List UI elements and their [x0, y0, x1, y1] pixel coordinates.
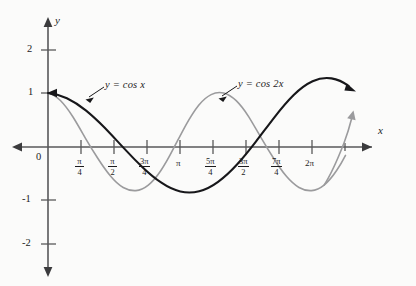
- y-tick-label-1: 1: [28, 87, 33, 98]
- y-axis-label: y: [55, 15, 60, 26]
- x-tick-label-pi-over-2-denominator: 2: [109, 168, 115, 177]
- x-tick-label-5pi-over-4-numerator: 5π: [205, 157, 216, 166]
- x-tick-label-pi-over-2: π 2: [108, 157, 117, 177]
- trig-graph-figure: y x 2 1 0 -1 -2 π 4 π 2 3π 4 π 5π 4 3π 2…: [0, 0, 416, 286]
- x-tick-label-pi: π: [176, 158, 181, 168]
- cos-x-pointer-arrowhead-icon: [86, 98, 94, 103]
- curve-cos-2x-tail: [324, 119, 351, 185]
- x-axis-left-arrow-icon: [12, 143, 22, 152]
- y-tick-label-neg2: -2: [22, 238, 31, 249]
- x-tick-label-3pi-over-4-denominator: 4: [141, 168, 147, 177]
- x-tick-label-3pi-over-4-numerator: 3π: [139, 157, 150, 166]
- x-tick-label-pi-over-2-numerator: π: [109, 157, 115, 166]
- cos-2x-pointer-arrowhead-icon: [219, 97, 227, 102]
- curve-cos-x: [48, 78, 349, 192]
- x-tick-label-pi-over-4-denominator: 4: [76, 168, 82, 177]
- y-axis-up-arrow-icon: [44, 17, 53, 27]
- origin-label: 0: [36, 152, 41, 163]
- y-tick-label-2: 2: [27, 44, 32, 55]
- x-tick-label-5pi-over-4: 5π 4: [205, 157, 216, 177]
- curve-label-cos-2x: y = cos 2x: [238, 79, 284, 90]
- x-tick-label-3pi-over-2-denominator: 2: [240, 168, 246, 177]
- x-tick-label-2pi: 2π: [305, 158, 314, 168]
- cos-x-pointer-line: [89, 87, 104, 97]
- plot-canvas: [0, 0, 416, 286]
- y-tick-label-neg1: -1: [22, 194, 31, 205]
- x-tick-label-pi-over-4-numerator: π: [76, 157, 82, 166]
- x-axis-label: x: [378, 125, 383, 136]
- x-tick-label-3pi-over-2: 3π 2: [238, 157, 249, 177]
- curve-cos-2x-arrowhead-icon: [347, 111, 355, 121]
- y-axis-down-arrow-icon: [44, 267, 53, 277]
- cos-2x-pointer-line: [222, 86, 237, 96]
- x-axis-right-arrow-icon: [362, 143, 372, 152]
- x-tick-label-7pi-over-4-numerator: 7π: [271, 157, 282, 166]
- x-tick-label-3pi-over-4: 3π 4: [139, 157, 150, 177]
- curve-label-cos-x: y = cos x: [105, 80, 145, 91]
- x-tick-label-3pi-over-2-numerator: 3π: [238, 157, 249, 166]
- x-tick-label-5pi-over-4-denominator: 4: [207, 168, 213, 177]
- x-tick-label-7pi-over-4-denominator: 4: [273, 168, 279, 177]
- x-tick-label-pi-over-4: π 4: [75, 157, 84, 177]
- x-tick-label-7pi-over-4: 7π 4: [271, 157, 282, 177]
- curve-cos-2x: [48, 93, 346, 191]
